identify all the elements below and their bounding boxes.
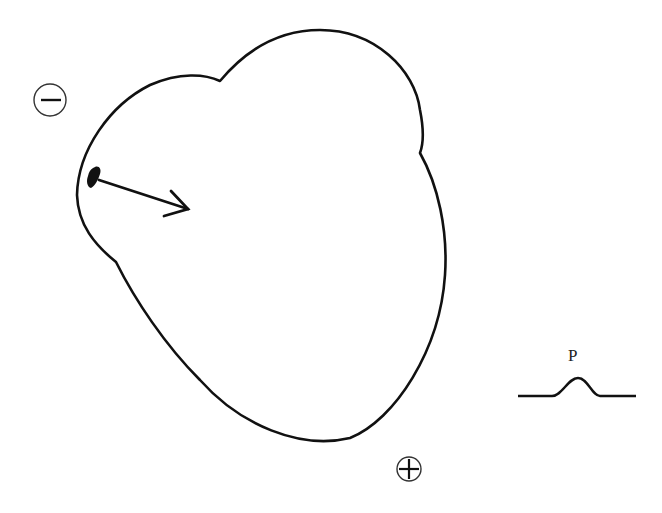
heart-diagram	[0, 0, 662, 513]
sinoatrial-node-blob	[87, 166, 101, 188]
minus-circle-icon	[34, 84, 66, 116]
p-wave-label: P	[568, 346, 577, 366]
arrow-right-down-icon	[99, 180, 188, 216]
heart-outline	[77, 30, 446, 441]
p-wave-trace	[518, 378, 636, 396]
plus-circle-icon	[397, 457, 421, 481]
